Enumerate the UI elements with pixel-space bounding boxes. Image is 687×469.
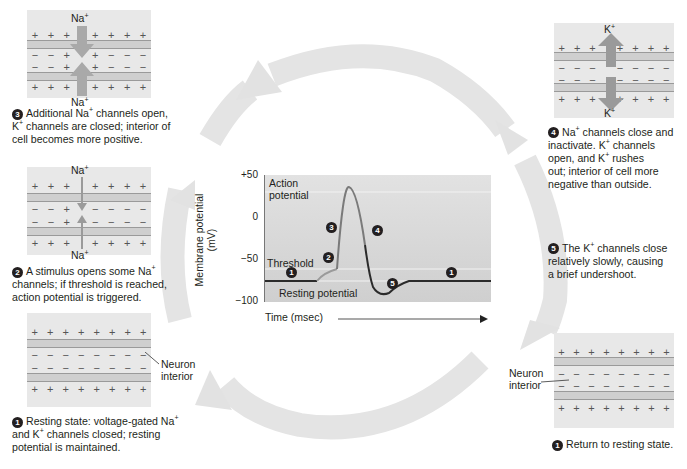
stage-3-membrane: Na+ +++ ++++ −−+ +−−− −−+ +−−− +++ ++++ … <box>27 10 151 98</box>
x-axis-label: Time (msec) <box>265 311 323 323</box>
stage-2-membrane: Na+ +++ ++++ −−+ −−−− −−+ −−−− +++ ++++ … <box>27 167 151 255</box>
na-trickle-arrows-icon <box>74 177 90 249</box>
k-outflow-arrows-icon <box>596 33 626 111</box>
stage-1-return-membrane: ++++++++ −−−−−−−− −−−−−−−− ++++++++ <box>554 333 674 428</box>
stage-1-return-text: Return to resting state. <box>566 438 673 450</box>
step-5-badge: 5 <box>548 243 559 254</box>
ytick-0: 0 <box>228 211 258 222</box>
graph-marker-3: 3 <box>326 222 337 233</box>
threshold-label: Threshold <box>267 257 314 269</box>
stage-4-membrane: K+ +++ ++++ −−− −−−− −−− −−−− +++ ++++ K… <box>554 23 674 118</box>
neuron-interior-label-right: Neuroninterior <box>509 367 543 391</box>
stage-1-caption: 1Resting state: voltage-gated Na+and K+ … <box>12 415 202 454</box>
stage-4-caption: 4Na+ channels close andinactivate. K+ ch… <box>548 126 687 191</box>
ylabel-line1: Membrane potential <box>193 194 205 287</box>
ytick-50: +50 <box>228 169 258 180</box>
step-1-return-badge: 1 <box>552 440 563 451</box>
stage-1-membrane: ++++++++ −−−−−−−− −−−−−−−− ++++++++ <box>27 313 151 407</box>
na-ion-label-top: Na+ <box>71 12 89 24</box>
step-3-badge: 3 <box>12 109 23 120</box>
neuron-interior-label-left: Neuroninterior <box>161 358 195 382</box>
inner-charges-top: −−−−−−−− <box>554 369 674 380</box>
neuron-interior-pointer-right <box>541 378 571 386</box>
ylabel-line2: (mV) <box>205 229 217 252</box>
stage-3-caption: 3Additional Na+ channels open,K+ channel… <box>12 107 202 146</box>
step-2-badge: 2 <box>12 267 23 278</box>
plot-area: 1 2 3 4 5 1 Actionpotential Threshold Re… <box>264 175 491 302</box>
stage-5-caption: 5The K+ channels closerelatively slowly,… <box>548 242 687 281</box>
k-ion-label-bottom: K+ <box>604 107 615 119</box>
stage-2-text: A stimulus opens some Na+channels; if th… <box>12 265 167 303</box>
resting-potential-label: Resting potential <box>279 287 357 299</box>
graph-marker-1b: 1 <box>446 267 457 278</box>
outer-charges-top: ++++++++ <box>27 327 151 338</box>
time-arrow-icon <box>338 314 490 324</box>
na-inflow-arrows-icon <box>67 26 97 96</box>
ytick-neg100: −100 <box>228 295 258 306</box>
stage-1-return-caption: 1Return to resting state. <box>552 438 687 451</box>
graph-marker-2: 2 <box>323 252 334 263</box>
inner-charges-top: −−−−−−−− <box>27 350 151 361</box>
action-potential-label: Actionpotential <box>269 177 309 201</box>
stage-2-caption: 2A stimulus opens some Na+channels; if t… <box>12 265 202 304</box>
graph-marker-4: 4 <box>372 225 383 236</box>
outer-charges-bottom: ++++++++ <box>554 403 674 414</box>
outer-charges-bottom: ++++++++ <box>27 384 151 395</box>
stage-1-text: Resting state: voltage-gated Na+and K+ c… <box>12 415 179 453</box>
step-4-badge: 4 <box>548 127 559 138</box>
stage-4-text: Na+ channels close andinactivate. K+ cha… <box>548 126 673 190</box>
action-potential-graph: Membrane potential(mV) +50 0 −50 −100 1 … <box>195 160 490 325</box>
na-ion-label-bottom: Na+ <box>71 249 89 261</box>
step-1-badge: 1 <box>12 417 23 428</box>
stage-3-text: Additional Na+ channels open,K+ channels… <box>12 107 170 145</box>
graph-marker-5: 5 <box>387 278 398 289</box>
y-axis-label: Membrane potential(mV) <box>193 200 221 290</box>
ytick-neg50: −50 <box>228 253 258 264</box>
na-ion-label-top: Na+ <box>71 164 89 176</box>
stage-5-text: The K+ channels closerelatively slowly, … <box>548 242 667 280</box>
